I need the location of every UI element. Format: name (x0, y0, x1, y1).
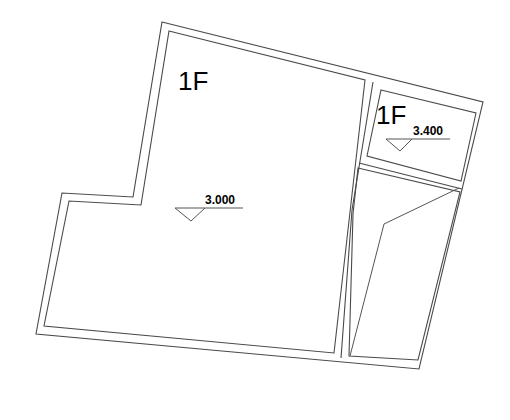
floor-plan: 1F 1F 3.000 3.400 (0, 0, 510, 420)
level-mark-main: 3.000 (175, 193, 243, 221)
outer-wall (36, 22, 483, 369)
svg-text:3.400: 3.400 (413, 124, 443, 138)
svg-text:3.000: 3.000 (205, 193, 235, 207)
main-floor-label: 1F (178, 66, 208, 96)
lower-right-room-outline (349, 168, 460, 360)
interior-wall (341, 82, 373, 358)
partition-wall (359, 163, 462, 189)
small-floor-label: 1F (376, 100, 406, 130)
